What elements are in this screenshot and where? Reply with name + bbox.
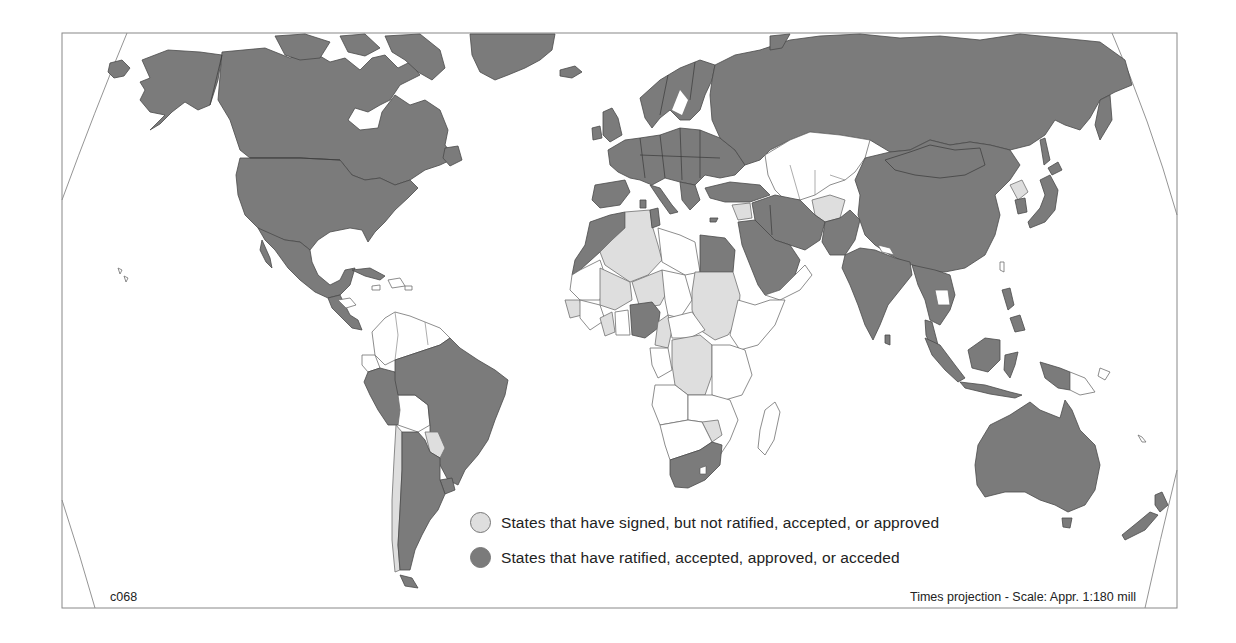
legend-swatch-light — [470, 512, 491, 533]
island — [640, 200, 646, 208]
legend-swatch-dark — [470, 547, 491, 568]
east-asia — [842, 140, 1062, 350]
projection-note: Times projection - Scale: Appr. 1:180 mi… — [910, 590, 1136, 604]
map-legend: States that have signed, but not ratifie… — [470, 509, 939, 579]
island — [710, 218, 718, 222]
legend-label-signed: States that have signed, but not ratifie… — [501, 514, 939, 532]
legend-item-ratified: States that have ratified, accepted, app… — [470, 544, 939, 571]
legend-label-ratified: States that have ratified, accepted, app… — [501, 549, 900, 567]
map-code: c068 — [110, 590, 137, 604]
north-america — [108, 34, 555, 330]
oceania — [925, 338, 1168, 540]
projection-edge-left-top — [62, 33, 127, 200]
legend-item-signed: States that have signed, but not ratifie… — [470, 509, 939, 536]
projection-edge-right-bottom — [1145, 470, 1177, 608]
projection-edge-left-bottom — [62, 500, 95, 608]
